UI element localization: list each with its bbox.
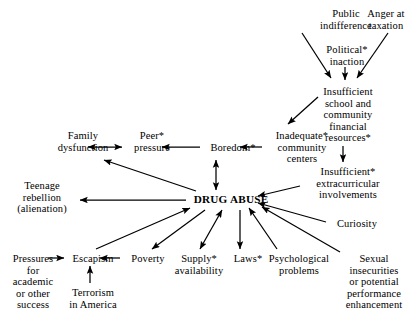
node-pressures_academic: Pressures for academic or other success: [4, 253, 62, 311]
node-poverty: Poverty: [124, 253, 172, 265]
node-peer_pressure: Peer* pressure: [126, 130, 178, 153]
node-teenage_rebellion: Teenage rebellion (alienation): [8, 180, 76, 215]
edge-escapism-to-drug_abuse: [96, 208, 190, 249]
node-boredom: Boredom*: [204, 142, 262, 154]
node-family_dysfunction: Family dysfunction: [47, 130, 119, 153]
node-anger_taxation: Anger at taxation: [357, 8, 414, 31]
edge-drug_abuse-to-family_dysfunction: [104, 160, 196, 191]
node-terrorism: Terrorism in America: [61, 287, 125, 310]
edge-psychological-to-drug_abuse: [249, 208, 277, 249]
edge-drug_abuse-to-poverty: [152, 210, 205, 249]
node-psychological: Psychological problems: [260, 253, 338, 276]
node-supply_availability: Supply* availability: [168, 253, 230, 276]
node-inadequate_community: Inadequate* community centers: [266, 130, 338, 165]
concept-map-canvas: Public indifferenceAnger at taxationPoli…: [0, 0, 414, 328]
node-sexual_insecurities: Sexual insecurities or potential perform…: [337, 253, 411, 311]
node-insufficient_extra: Insufficient* extracurricular involvemen…: [304, 166, 392, 201]
node-political_inaction: Political* inaction: [316, 44, 378, 67]
edge-sexual_insecurities-to-drug_abuse: [262, 207, 340, 252]
node-curiosity: Curiosity: [330, 218, 384, 230]
node-drug_abuse: DRUG ABUSE: [188, 194, 274, 206]
node-escapism: Escapism: [66, 253, 120, 265]
edge-curiosity-to-drug_abuse: [258, 203, 326, 222]
edge-drug_abuse-to-supply_availability: [200, 210, 222, 249]
